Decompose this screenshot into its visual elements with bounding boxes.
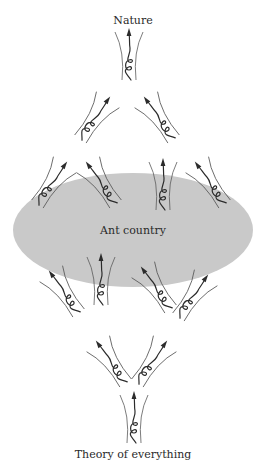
flow-funnel-icon-lower-left — [84, 332, 137, 391]
flow-funnel-icon-bottom — [120, 391, 148, 443]
ant-country-label: Ant country — [100, 225, 166, 236]
flow-funnel-icon-lower-right — [126, 332, 179, 391]
nature-label: Nature — [113, 15, 152, 26]
flow-funnel-icon-upper-left — [69, 88, 122, 147]
flow-funnel-icon-top — [115, 28, 143, 80]
flow-funnel-icon-upper-right — [132, 88, 185, 147]
theory-of-everything-label: Theory of everything — [75, 449, 192, 460]
